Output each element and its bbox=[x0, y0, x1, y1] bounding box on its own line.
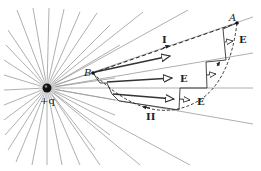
label-E-lower: E bbox=[197, 96, 205, 107]
path-II-upper-arrow bbox=[217, 63, 219, 66]
path-II-direction-arrow bbox=[144, 107, 150, 108]
label-B: B bbox=[83, 67, 91, 78]
point-B bbox=[91, 71, 95, 75]
electric-field-path-diagram: +q B A I II E E E bbox=[0, 0, 261, 171]
label-E-middle: E bbox=[180, 73, 188, 84]
label-path-II: II bbox=[146, 111, 156, 122]
point-charge bbox=[43, 84, 52, 93]
charge-label: +q bbox=[40, 95, 55, 106]
label-A: A bbox=[228, 12, 236, 23]
label-E-upper: E bbox=[239, 34, 247, 45]
charge-highlight bbox=[45, 85, 48, 88]
label-path-I: I bbox=[162, 34, 167, 45]
